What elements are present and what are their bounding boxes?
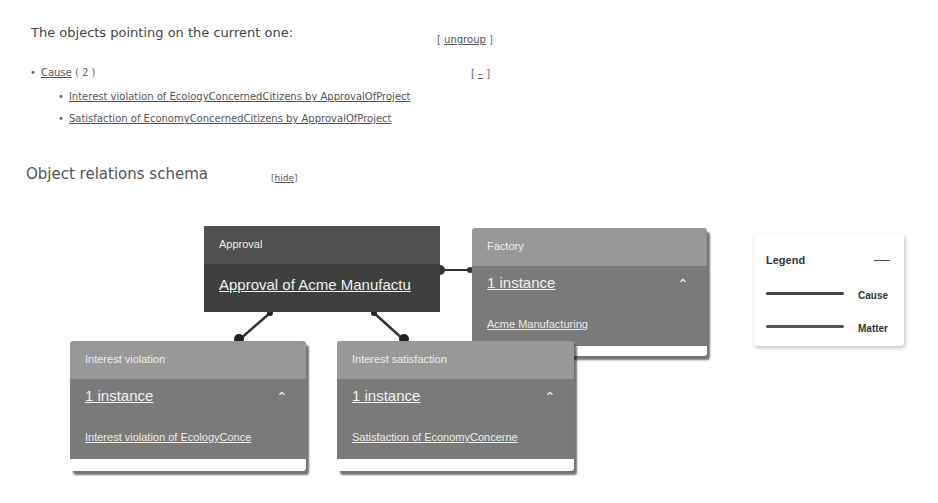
legend-title: Legend <box>766 254 805 266</box>
minimize-icon[interactable] <box>874 260 890 261</box>
factory-instance-count-link[interactable]: 1 instance <box>487 274 555 291</box>
violation-instance-count-link[interactable]: 1 instance <box>85 387 153 404</box>
chevron-up-icon[interactable]: ⌃ <box>276 389 288 405</box>
approval-node[interactable]: Approval Approval of Acme Manufactu <box>204 226 440 312</box>
cause-line-swatch <box>766 292 844 295</box>
node-type-label: Interest violation <box>70 341 306 379</box>
node-type-label: Approval <box>204 226 440 264</box>
legend-label-matter: Matter <box>858 323 888 334</box>
satisfaction-instance-count-link[interactable]: 1 instance <box>352 387 420 404</box>
interest-violation-node[interactable]: Interest violation 1 instance ⌃ Interest… <box>70 341 306 471</box>
legend-panel: Legend Cause Matter <box>754 234 904 346</box>
node-type-label: Interest satisfaction <box>337 341 574 379</box>
satisfaction-item-link[interactable]: Satisfaction of EconomyConcerne <box>352 431 518 443</box>
interest-satisfaction-node[interactable]: Interest satisfaction 1 instance ⌃ Satis… <box>337 341 574 471</box>
factory-node[interactable]: Factory 1 instance ⌃ Acme Manufacturing <box>472 228 707 356</box>
chevron-up-icon[interactable]: ⌃ <box>677 276 689 292</box>
chevron-up-icon[interactable]: ⌃ <box>544 389 556 405</box>
node-type-label: Factory <box>472 228 707 266</box>
factory-item-link[interactable]: Acme Manufacturing <box>487 318 588 330</box>
approval-instance-link[interactable]: Approval of Acme Manufactu <box>219 276 411 293</box>
matter-line-swatch <box>766 325 844 328</box>
legend-label-cause: Cause <box>858 290 888 301</box>
violation-item-link[interactable]: Interest violation of EcologyConce <box>85 431 251 443</box>
